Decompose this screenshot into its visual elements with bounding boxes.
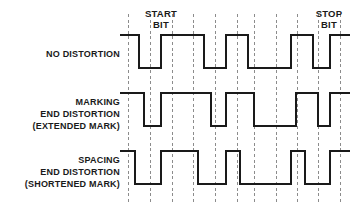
bit-annotations: STARTBITSTOPBIT [145,8,343,30]
waveform-trace-no-distortion [120,35,350,68]
row-label-no-distortion-line-0: NO DISTORTION [46,49,120,59]
row-label-marking-end-distortion-line-1: END DISTORTION [40,109,120,119]
stop-bit-label-line-2: BIT [321,19,337,30]
row-label-spacing-end-distortion-line-1: END DISTORTION [40,167,120,177]
row-labels: NO DISTORTIONMARKINGEND DISTORTION(EXTEN… [25,49,120,189]
row-label-marking-end-distortion-line-2: (EXTENDED MARK) [33,121,121,131]
row-label-spacing-end-distortion-line-0: SPACING [78,155,120,165]
start-bit-label-line-2: BIT [153,19,169,30]
waveform-canvas: NO DISTORTIONMARKINGEND DISTORTION(EXTEN… [0,0,350,211]
start-bit-label-line-1: START [145,8,177,19]
waveform-trace-spacing-end-distortion [120,151,350,184]
row-label-marking-end-distortion-line-0: MARKING [76,97,120,107]
waveform-traces [120,35,350,184]
waveform-trace-marking-end-distortion [120,93,350,126]
distortion-diagram: NO DISTORTIONMARKINGEND DISTORTION(EXTEN… [0,0,350,211]
stop-bit-label-line-1: STOP [316,8,343,19]
row-label-spacing-end-distortion-line-2: (SHORTENED MARK) [25,179,120,189]
